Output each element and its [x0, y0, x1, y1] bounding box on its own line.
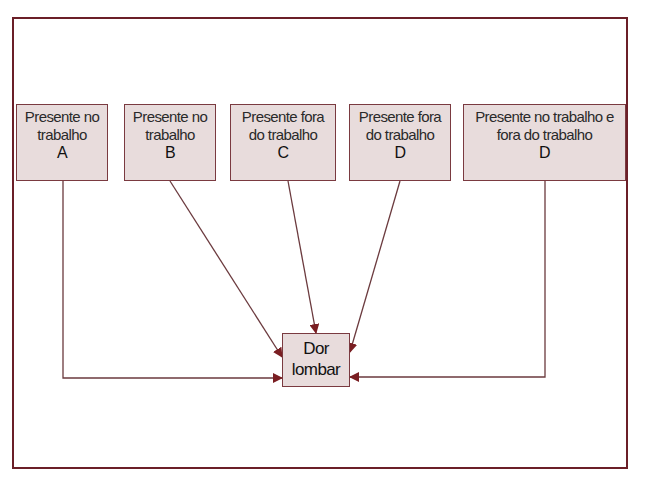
target-line1: Dor [283, 334, 349, 359]
arrow-d2 [350, 181, 545, 377]
label-line1: Presente fora [350, 105, 450, 126]
source-box-d2: Presente no trabalho e fora do trabalho … [463, 104, 626, 181]
arrow-a [63, 181, 282, 378]
label-letter: D [350, 144, 450, 162]
label-line1: Presente fora [231, 105, 335, 126]
arrow-d1 [350, 181, 400, 352]
arrow-b [170, 181, 282, 357]
label-line2: do trabalho [350, 126, 450, 144]
source-box-b: Presente no trabalho B [124, 104, 216, 181]
arrow-c [288, 181, 316, 333]
label-line1: Presente no trabalho e [464, 105, 625, 126]
label-line1: Presente no [125, 105, 215, 126]
arrow-connectors [0, 0, 649, 488]
label-line1: Presente no [17, 105, 107, 126]
target-box-dor-lombar: Dor lombar [282, 333, 350, 387]
label-letter: B [125, 144, 215, 162]
source-box-d1: Presente fora do trabalho D [349, 104, 451, 181]
source-box-a: Presente no trabalho A [16, 104, 108, 181]
label-letter: C [231, 144, 335, 162]
label-letter: A [17, 144, 107, 162]
label-letter: D [464, 144, 625, 162]
label-line2: trabalho [17, 126, 107, 144]
target-line2: lombar [283, 359, 349, 380]
label-line2: do trabalho [231, 126, 335, 144]
label-line2: trabalho [125, 126, 215, 144]
source-box-c: Presente fora do trabalho C [230, 104, 336, 181]
label-line2: fora do trabalho [464, 126, 625, 144]
